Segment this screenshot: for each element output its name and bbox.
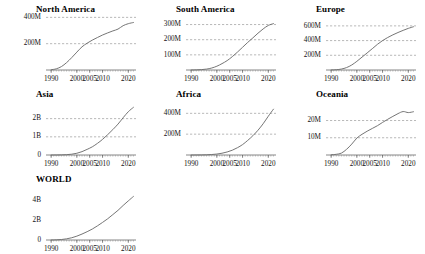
panel-world: WORLD02B4B19902000200520102020 (14, 174, 140, 254)
series-line-world (51, 196, 133, 239)
x-major-ticks-world: 19902000200520102020 (44, 240, 136, 253)
y-gridlines-africa: 200M400M (164, 109, 276, 138)
series-line-south-america (191, 24, 273, 70)
x-tick-label-north-america-4: 2020 (121, 75, 136, 83)
y-tick-label-south-america-1: 200M (164, 35, 182, 43)
plot-north-america: 200M400M19902000200520102020 (14, 4, 140, 84)
series-line-oceania (331, 112, 413, 155)
y-gridlines-oceania: 10M20M (307, 116, 416, 141)
panel-title-africa: Africa (176, 89, 201, 99)
y-tick-label-europe-1: 400M (304, 36, 322, 44)
panel-title-oceania: Oceania (316, 89, 348, 99)
y-tick-label-world-0: 0 (37, 236, 41, 244)
series-line-europe (331, 27, 413, 70)
x-tick-label-europe-4: 2020 (401, 75, 416, 83)
x-tick-label-south-america-0: 1990 (184, 75, 199, 83)
y-tick-label-europe-0: 200M (304, 51, 322, 59)
x-tick-label-south-america-3: 2010 (235, 75, 250, 83)
x-tick-label-asia-0: 1990 (44, 160, 59, 168)
y-tick-label-oceania-0: 10M (307, 133, 321, 141)
y-tick-label-south-america-0: 100M (164, 51, 182, 59)
y-tick-label-africa-1: 400M (164, 109, 182, 117)
x-tick-label-world-4: 2020 (121, 245, 136, 253)
panel-north-america: North America200M400M1990200020052010202… (14, 4, 140, 84)
y-tick-label-oceania-1: 20M (307, 116, 321, 124)
x-tick-label-north-america-0: 1990 (44, 75, 59, 83)
y-gridlines-world: 02B4B (33, 196, 42, 243)
plot-africa: 200M400M19902000200520102020 (154, 89, 280, 169)
x-tick-label-africa-4: 2020 (261, 160, 276, 168)
x-major-ticks-africa: 19902000200520102020 (184, 155, 276, 168)
y-tick-label-africa-0: 200M (164, 130, 182, 138)
plot-south-america: 100M200M300M19902000200520102020 (154, 4, 280, 84)
series-line-north-america (51, 23, 133, 70)
x-tick-label-africa-0: 1990 (184, 160, 199, 168)
x-tick-label-world-0: 1990 (44, 245, 59, 253)
series-line-asia (51, 107, 133, 155)
x-major-ticks-north-america: 19902000200520102020 (44, 70, 136, 83)
y-tick-label-europe-2: 600M (304, 22, 322, 30)
panel-asia: Asia01B2B19902000200520102020 (14, 89, 140, 169)
panel-title-europe: Europe (316, 4, 345, 14)
y-tick-label-asia-1: 1B (33, 132, 42, 140)
plot-europe: 200M400M600M19902000200520102020 (294, 4, 420, 84)
y-tick-label-asia-0: 0 (37, 151, 41, 159)
plot-world: 02B4B19902000200520102020 (14, 174, 140, 254)
panel-oceania: Oceania10M20M19902000200520102020 (294, 89, 420, 169)
x-tick-label-asia-3: 2010 (95, 160, 110, 168)
y-tick-label-world-2: 4B (33, 196, 42, 204)
panel-title-asia: Asia (36, 89, 53, 99)
x-major-ticks-asia: 19902000200520102020 (44, 155, 136, 168)
y-tick-label-world-1: 2B (33, 216, 42, 224)
x-tick-label-world-3: 2010 (95, 245, 110, 253)
x-tick-label-south-america-4: 2020 (261, 75, 276, 83)
y-tick-label-asia-2: 2B (33, 114, 42, 122)
y-tick-label-north-america-0: 200M (24, 39, 42, 47)
x-tick-label-europe-0: 1990 (324, 75, 339, 83)
small-multiples-figure: North America200M400M1990200020052010202… (0, 0, 425, 254)
x-tick-label-oceania-0: 1990 (324, 160, 339, 168)
y-tick-label-south-america-2: 300M (164, 20, 182, 28)
y-gridlines-europe: 200M400M600M (304, 22, 416, 59)
series-line-africa (191, 109, 273, 155)
x-tick-label-oceania-4: 2020 (401, 160, 416, 168)
panel-africa: Africa200M400M19902000200520102020 (154, 89, 280, 169)
y-gridlines-south-america: 100M200M300M (164, 20, 276, 58)
panel-europe: Europe200M400M600M19902000200520102020 (294, 4, 420, 84)
y-tick-label-north-america-1: 400M (24, 13, 42, 21)
x-tick-label-asia-4: 2020 (121, 160, 136, 168)
plot-asia: 01B2B19902000200520102020 (14, 89, 140, 169)
plot-oceania: 10M20M19902000200520102020 (294, 89, 420, 169)
x-tick-label-oceania-3: 2010 (375, 160, 390, 168)
x-major-ticks-europe: 19902000200520102020 (324, 70, 416, 83)
x-major-ticks-oceania: 19902000200520102020 (324, 155, 416, 168)
x-tick-label-europe-3: 2010 (375, 75, 390, 83)
panel-title-world: WORLD (36, 174, 72, 184)
panel-title-south-america: South America (176, 4, 235, 14)
x-tick-label-africa-3: 2010 (235, 160, 250, 168)
x-tick-label-north-america-3: 2010 (95, 75, 110, 83)
panel-south-america: South America100M200M300M199020002005201… (154, 4, 280, 84)
x-major-ticks-south-america: 19902000200520102020 (184, 70, 276, 83)
y-gridlines-north-america: 200M400M (24, 13, 136, 47)
panel-title-north-america: North America (36, 4, 95, 14)
